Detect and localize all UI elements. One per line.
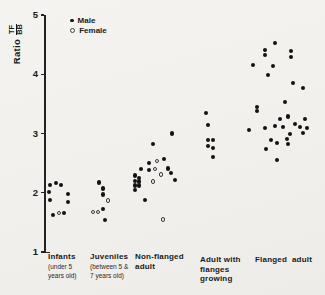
data-point [59, 183, 63, 187]
scatter-plot-figure: Ratio TF BB Male Female 54321Infants(und… [0, 0, 325, 295]
y-tick-mark [41, 133, 45, 134]
y-tick-label: 2 [24, 188, 38, 198]
data-point [147, 161, 151, 165]
open-circle-icon [70, 28, 75, 33]
data-point [54, 181, 58, 185]
data-point [96, 210, 100, 214]
data-point [211, 146, 215, 150]
legend: Male Female [70, 16, 107, 36]
data-point [143, 198, 147, 202]
data-point [206, 144, 210, 148]
data-point [169, 171, 173, 175]
data-point [151, 142, 155, 146]
data-point [263, 53, 267, 57]
data-point [106, 198, 110, 202]
data-point [288, 132, 292, 136]
category-sublabel-line: 7 years old) [90, 271, 128, 280]
data-point [301, 86, 305, 90]
data-point [275, 141, 279, 145]
category-label: Infants(under 5years old) [48, 252, 77, 280]
data-point [255, 109, 259, 113]
y-axis-fraction: TF BB [8, 24, 24, 35]
y-tick-mark [41, 251, 45, 252]
data-point [247, 128, 251, 132]
data-point [263, 48, 267, 52]
data-point [161, 217, 165, 221]
data-point [291, 81, 295, 85]
data-point [263, 126, 267, 130]
data-point [162, 157, 166, 161]
data-point [286, 142, 290, 146]
data-point [211, 138, 215, 142]
data-point [166, 166, 170, 170]
category-label: Flanged adult [255, 255, 312, 265]
y-axis-label-text: Ratio [11, 39, 22, 64]
data-point [97, 180, 101, 184]
category-sublabel-line: (between 5 & [90, 262, 128, 271]
y-tick-label: 3 [24, 129, 38, 139]
data-point [275, 158, 279, 162]
y-tick-mark [41, 192, 45, 193]
category-label-line: growing [200, 274, 241, 284]
data-point [211, 155, 215, 159]
data-point [281, 125, 285, 129]
data-point [286, 114, 290, 118]
data-point [48, 183, 52, 187]
data-point [57, 211, 61, 215]
category-label: Adult withflangesgrowing [200, 255, 241, 284]
data-point [206, 138, 210, 142]
data-point [251, 63, 255, 67]
y-axis-label: Ratio TF BB [2, 14, 30, 74]
category-sublabel-line: (under 5 [48, 262, 77, 271]
data-point [289, 49, 293, 53]
legend-item-female: Female [70, 26, 107, 35]
data-point [283, 100, 287, 104]
data-point [51, 213, 55, 217]
filled-circle-icon [70, 19, 74, 23]
data-point [289, 55, 293, 59]
category-label: Juveniles(between 5 &7 years old) [90, 252, 128, 280]
data-point [305, 126, 309, 130]
data-point [48, 198, 52, 202]
data-point [285, 137, 289, 141]
data-point [153, 167, 157, 171]
category-label: Non-flangedadult [135, 252, 184, 271]
legend-label-female: Female [79, 26, 107, 35]
category-label-line: Juveniles [90, 252, 128, 262]
category-label-line: adult [135, 262, 184, 272]
data-point [269, 138, 273, 142]
data-point [133, 188, 137, 192]
data-point [66, 200, 70, 204]
data-point [271, 64, 275, 68]
category-label-line: Adult with [200, 255, 241, 265]
data-point [137, 183, 141, 187]
data-point [204, 111, 208, 115]
data-point [62, 211, 66, 215]
data-point [101, 186, 105, 190]
legend-label-male: Male [78, 16, 96, 25]
data-point [273, 124, 277, 128]
category-label-line: Flanged adult [255, 255, 312, 265]
data-point [206, 123, 210, 127]
data-point [147, 168, 151, 172]
data-point [266, 73, 270, 77]
data-point [101, 207, 105, 211]
data-point [173, 178, 177, 182]
category-label-line: flanges [200, 265, 241, 275]
data-point [293, 122, 297, 126]
data-point [101, 192, 105, 196]
data-point [47, 190, 51, 194]
data-point [91, 210, 95, 214]
data-point [170, 131, 174, 135]
data-point [303, 117, 307, 121]
data-point [273, 41, 277, 45]
legend-item-male: Male [70, 16, 107, 25]
data-point [155, 159, 159, 163]
y-axis-line [44, 15, 46, 253]
data-point [139, 167, 143, 171]
y-tick-label: 1 [24, 247, 38, 257]
data-point [159, 172, 163, 176]
data-point [151, 179, 155, 183]
data-point [298, 125, 302, 129]
y-tick-label: 4 [24, 69, 38, 79]
